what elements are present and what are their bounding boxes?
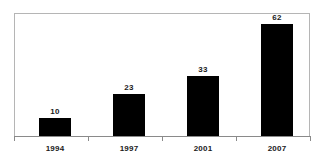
x-axis-label-1997: 1997	[101, 144, 157, 153]
bar-rect[interactable]	[113, 94, 145, 136]
bar-rect[interactable]	[39, 118, 71, 136]
bar-rect[interactable]	[261, 24, 293, 136]
x-axis-label-2007: 2007	[249, 144, 305, 153]
x-axis-label-1994: 1994	[27, 144, 83, 153]
x-axis-label-2001: 2001	[175, 144, 231, 153]
bar-rect[interactable]	[187, 76, 219, 136]
bar-value-label: 23	[124, 83, 133, 92]
bar-value-label: 10	[50, 107, 59, 116]
bar-chart: 10 23 33 62 1994 1997 2001 2007	[0, 0, 330, 166]
bars-layer: 10 23 33 62	[14, 13, 310, 136]
bar-value-label: 33	[198, 65, 207, 74]
axis-tick	[14, 137, 15, 141]
axis-tick	[236, 137, 237, 141]
axis-tick	[310, 137, 311, 141]
axis-tick	[88, 137, 89, 141]
x-axis-labels: 1994 1997 2001 2007	[14, 144, 310, 158]
bar-value-label: 62	[272, 13, 281, 22]
axis-tick	[162, 137, 163, 141]
